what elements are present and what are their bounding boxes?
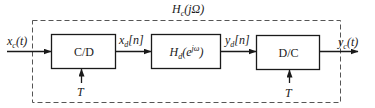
cd-block-label: C/D	[74, 45, 94, 60]
xd-signal-label: xd[n]	[119, 34, 144, 51]
hd-label-arg-close: )	[199, 45, 203, 59]
hd-label-main: H	[170, 45, 179, 59]
hd-label-arg-open: (e	[182, 45, 191, 59]
input-signal-label: xc(t)	[7, 35, 27, 52]
xd-signal-arg: [n]	[128, 33, 143, 47]
overall-system-label: Hc(jΩ)	[172, 3, 204, 20]
cd-sampling-period-label: T	[77, 86, 84, 98]
output-signal-arg: (t)	[347, 35, 358, 49]
input-signal-arg: (t)	[16, 34, 27, 48]
output-signal-label: yc(t)	[338, 36, 358, 53]
dc-block-label: D/C	[278, 46, 298, 61]
overall-system-label-main: H	[172, 2, 181, 16]
dc-converter-block: D/C	[257, 36, 320, 70]
overall-system-label-arg: (jΩ)	[184, 2, 204, 16]
cd-converter-block: C/D	[52, 35, 116, 69]
yd-signal-label: yd[n]	[225, 34, 250, 51]
dc-sampling-period-label: T	[285, 87, 292, 99]
discrete-filter-block: Hd(ejω)	[152, 35, 221, 69]
yd-signal-arg: [n]	[234, 33, 249, 47]
